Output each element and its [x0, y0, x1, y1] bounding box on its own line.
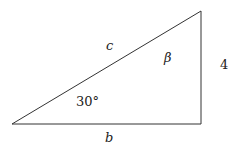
right-triangle: [12, 11, 201, 124]
label-height: 4: [220, 57, 228, 72]
label-angle-beta: β: [163, 50, 172, 65]
label-angle-30: 30°: [76, 94, 99, 109]
label-base: b: [105, 130, 113, 145]
triangle-diagram: c β 4 30° b: [0, 0, 243, 152]
label-hypotenuse: c: [106, 38, 114, 53]
